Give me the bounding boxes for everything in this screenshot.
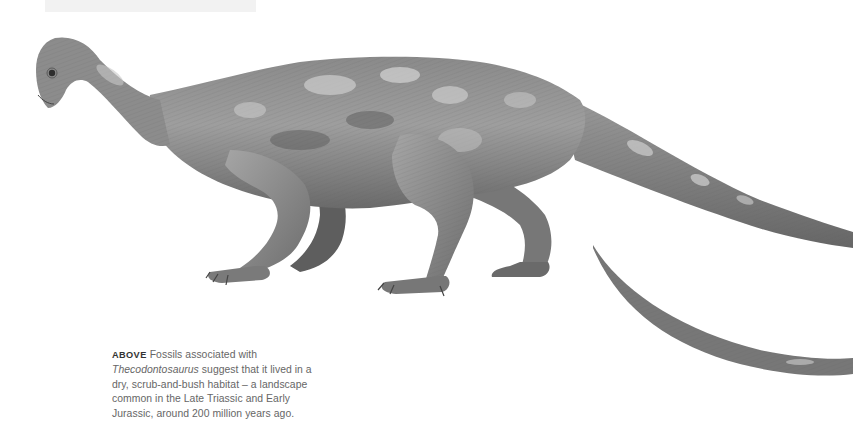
neck-and-head (36, 37, 170, 146)
eye-icon (49, 70, 55, 76)
tail-tip-inset (593, 245, 853, 376)
near-hind-leg (378, 134, 474, 296)
caption-text-before: Fossils associated with (150, 349, 257, 360)
book-page: ABOVEFossils associated with Thecodontos… (0, 0, 853, 421)
caption-lead: ABOVE (112, 350, 147, 360)
tail (560, 95, 853, 248)
caption-species: Thecodontosaurus (112, 364, 199, 375)
figure-caption: ABOVEFossils associated with Thecodontos… (112, 348, 317, 421)
body (150, 57, 586, 209)
